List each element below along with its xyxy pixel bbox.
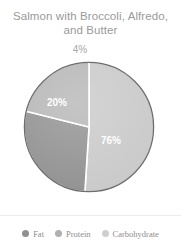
legend-dot-icon-protein (55, 230, 62, 237)
page-title: Salmon with Broccoli, Alfredo, and Butte… (8, 9, 173, 37)
legend-dot-icon-fat (22, 230, 29, 237)
pie-label-carbohydrate: 76% (101, 135, 121, 146)
legend-item-carbohydrate[interactable]: Carbohydrate (102, 229, 159, 239)
pie-svg: 76% 20% (22, 60, 156, 194)
legend-item-protein[interactable]: Protein (55, 229, 91, 239)
protein-callout-label: 4% (0, 44, 160, 55)
legend-item-fat[interactable]: Fat (22, 229, 44, 239)
pie-chart: 4% 76% 20% (0, 38, 181, 210)
chart-legend: Fat Protein Carbohydrate (0, 215, 181, 251)
legend-dot-icon-carbohydrate (102, 230, 109, 237)
legend-label-fat: Fat (33, 229, 44, 239)
pie-label-fat: 20% (47, 97, 67, 108)
pie-graphic: 76% 20% (22, 60, 156, 194)
legend-label-carbohydrate: Carbohydrate (113, 229, 159, 239)
nutrition-pie-card: Salmon with Broccoli, Alfredo, and Butte… (0, 0, 181, 251)
legend-label-protein: Protein (66, 229, 91, 239)
